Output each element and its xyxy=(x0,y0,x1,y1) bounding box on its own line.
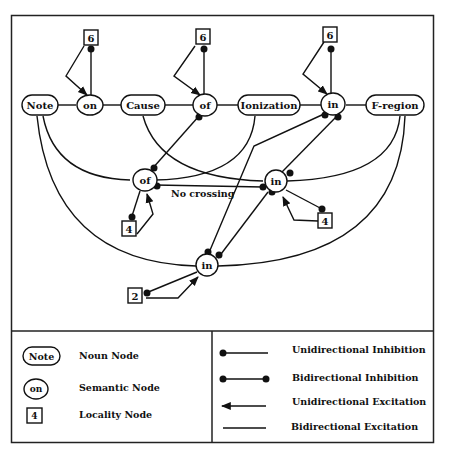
svg-text:Bidirectional Excitation: Bidirectional Excitation xyxy=(291,421,418,432)
svg-text:of: of xyxy=(200,100,212,111)
legend-unidirectional-excitation: Unidirectional Excitation xyxy=(222,396,426,407)
svg-text:of: of xyxy=(140,175,152,186)
locality-node-in-low: 2 xyxy=(128,288,142,303)
legend-nodes: Note Noun Node on Semantic Node 4 Locali… xyxy=(23,347,160,423)
legend-semantic-node: on Semantic Node xyxy=(24,379,160,399)
svg-text:Locality Node: Locality Node xyxy=(79,409,152,420)
locality-node-in-mid: 4 xyxy=(318,213,332,228)
svg-text:Ionization: Ionization xyxy=(241,100,299,111)
svg-text:4: 4 xyxy=(31,411,37,421)
legend-bidirectional-inhibition: Bidirectional Inhibition xyxy=(220,372,419,383)
semantic-node-on: on xyxy=(77,95,103,115)
edges xyxy=(37,42,405,298)
svg-text:Note: Note xyxy=(29,351,54,362)
svg-text:in: in xyxy=(201,260,213,271)
svg-text:on: on xyxy=(83,100,98,111)
legend-bidirectional-excitation: Bidirectional Excitation xyxy=(223,421,418,432)
svg-text:Unidirectional Inhibition: Unidirectional Inhibition xyxy=(292,344,426,355)
svg-text:Semantic Node: Semantic Node xyxy=(79,382,160,393)
svg-text:4: 4 xyxy=(126,224,133,235)
locality-node-of-top: 6 xyxy=(196,29,210,44)
svg-text:Noun Node: Noun Node xyxy=(79,350,139,361)
legend-locality-node: 4 Locality Node xyxy=(27,408,152,423)
semantic-node-in-top: in xyxy=(321,93,345,115)
svg-text:Bidirectional Inhibition: Bidirectional Inhibition xyxy=(292,372,418,383)
noun-node-ionization: Ionization xyxy=(238,95,300,115)
legend-edges: Unidirectional Inhibition Bidirectional … xyxy=(220,344,427,432)
svg-text:6: 6 xyxy=(327,30,334,41)
svg-text:4: 4 xyxy=(322,216,329,227)
locality-node-of-mid: 4 xyxy=(122,221,136,236)
svg-text:in: in xyxy=(270,176,282,187)
noun-node-f-region: F-region xyxy=(366,95,424,115)
svg-text:Cause: Cause xyxy=(126,100,160,111)
svg-text:2: 2 xyxy=(132,291,139,302)
locality-node-in-top: 6 xyxy=(323,27,337,42)
semantic-node-in-low: in xyxy=(196,254,218,276)
svg-text:6: 6 xyxy=(200,32,207,43)
network-diagram: Note Cause Ionization F-region on of in … xyxy=(0,0,449,453)
svg-text:Note: Note xyxy=(27,100,54,111)
semantic-node-of-mid: of xyxy=(133,169,157,191)
semantic-node-of-top: of xyxy=(193,94,217,116)
noun-node-cause: Cause xyxy=(121,95,165,115)
svg-text:on: on xyxy=(30,384,43,394)
svg-text:6: 6 xyxy=(88,33,95,44)
noun-node-note: Note xyxy=(22,95,58,115)
semantic-node-in-mid: in xyxy=(265,170,287,192)
locality-node-on: 6 xyxy=(84,30,98,45)
legend-unidirectional-inhibition: Unidirectional Inhibition xyxy=(220,344,426,357)
legend-noun-node: Note Noun Node xyxy=(23,347,139,365)
svg-text:Unidirectional Excitation: Unidirectional Excitation xyxy=(292,396,426,407)
svg-text:F-region: F-region xyxy=(371,100,419,111)
no-crossing-label: No crossing xyxy=(171,188,235,199)
svg-text:in: in xyxy=(327,99,339,110)
